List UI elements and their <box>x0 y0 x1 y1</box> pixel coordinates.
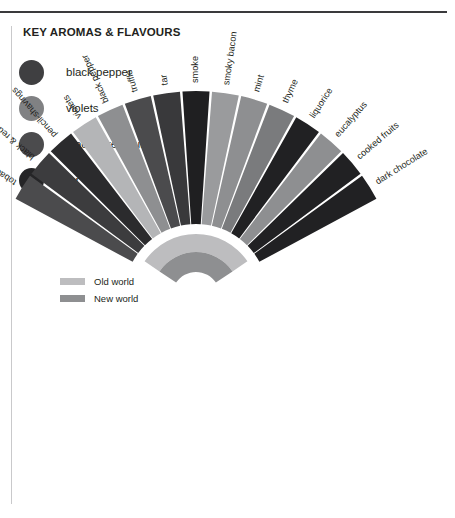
world-legend-item: New world <box>60 290 138 307</box>
aroma-legend-label: tar <box>66 174 79 186</box>
origin-annulus-group <box>145 234 248 283</box>
origin-annulus-band[interactable] <box>145 234 248 271</box>
fan-wedge-label: dark chocolate <box>373 146 429 186</box>
panel-title: KEY AROMAS & FLAVOURS <box>23 26 181 38</box>
fan-wedge-label: tobacco <box>0 162 18 188</box>
aroma-color-swatch-icon <box>19 96 44 121</box>
aroma-legend-item: black & red fruits <box>19 126 229 162</box>
aroma-legend-item: black pepper <box>19 54 229 90</box>
aroma-color-swatch-icon <box>19 168 44 193</box>
top-divider-rule <box>0 11 447 13</box>
world-legend-label: New world <box>94 293 138 304</box>
fan-wedge-label: liquorice <box>308 86 335 120</box>
world-legend-item: Old world <box>60 273 138 290</box>
aroma-legend-item: violets <box>19 90 229 126</box>
aroma-legend-label: black pepper <box>66 66 132 78</box>
aroma-legend: black peppervioletsblack & red fruitstar <box>19 54 229 198</box>
origin-annulus-band[interactable] <box>160 252 233 283</box>
aroma-color-swatch-icon <box>19 132 44 157</box>
fan-wedge[interactable] <box>231 117 319 238</box>
fan-wedge-label: cooked fruits <box>355 120 401 162</box>
fan-wedge-label: thyme <box>280 78 300 105</box>
fan-wedge[interactable] <box>240 133 341 245</box>
chart-page: KEY AROMAS & FLAVOURS black pepperviolet… <box>0 0 455 518</box>
fan-wedge-label: mint <box>251 73 266 93</box>
aroma-legend-label: violets <box>66 102 99 114</box>
fan-wedge[interactable] <box>248 153 361 253</box>
world-legend-label: Old world <box>94 276 134 287</box>
fan-wedge[interactable] <box>222 105 294 233</box>
aroma-legend-label: black & red fruits <box>66 138 152 150</box>
fan-wedge-label: eucalyptus <box>332 99 369 139</box>
fan-wedge[interactable] <box>254 176 376 262</box>
left-divider-rule <box>11 26 12 504</box>
world-origin-legend: Old worldNew world <box>60 273 138 307</box>
world-color-swatch-icon <box>60 295 85 302</box>
aroma-color-swatch-icon <box>19 60 44 85</box>
world-color-swatch-icon <box>60 278 85 285</box>
aroma-legend-item: tar <box>19 162 229 198</box>
